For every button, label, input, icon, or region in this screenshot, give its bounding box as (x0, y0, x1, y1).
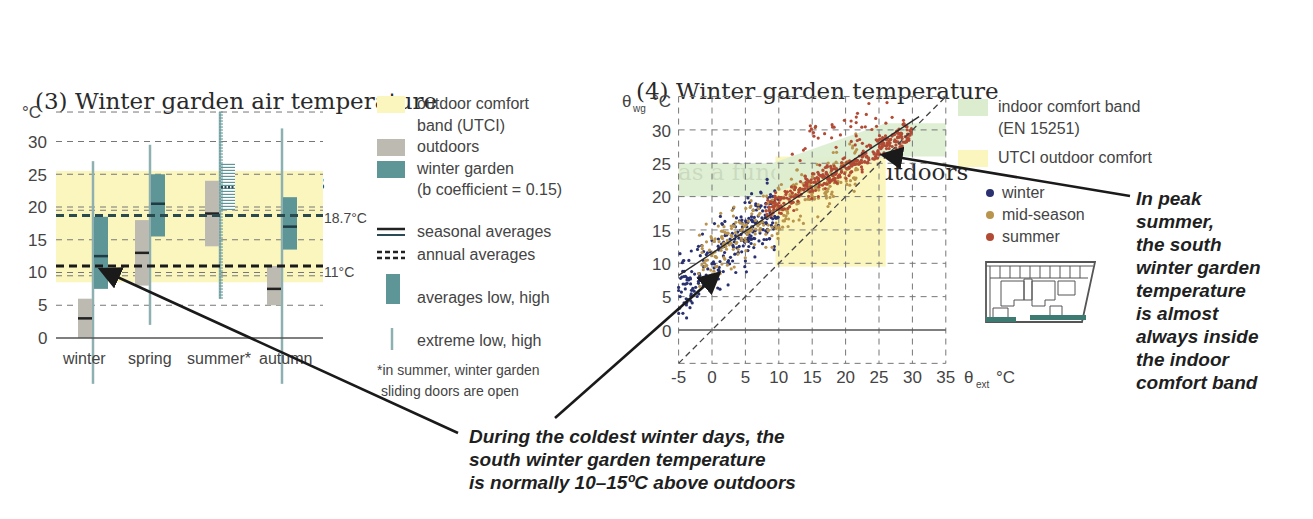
legend-outdoors-label: outdoors (417, 138, 479, 155)
chart4-ylabel-unit: °C (652, 92, 671, 111)
legend-summer-dot (986, 233, 994, 241)
legend-avg-box (386, 274, 400, 304)
chart3-ytick-20: 20 (28, 198, 47, 217)
chart3-legend: outdoor comfort band (UTCI) outdoors win… (377, 95, 562, 399)
chart4-trend-lines (679, 97, 946, 364)
legend-winter-garden-label2: (b coefficient = 0.15) (417, 181, 562, 198)
legend-utci-outdoor-swatch (958, 150, 988, 167)
chart4-ytick-0: 0 (662, 322, 671, 341)
chart4-ytick-25: 25 (652, 155, 671, 174)
chart4-xlabel-unit: °C (996, 368, 1015, 387)
legend-utci-label: outdoor comfort (417, 95, 530, 112)
chart4-ytick-10: 10 (652, 255, 671, 274)
chart3-ytick-30: 30 (28, 133, 47, 152)
chart4-ytick-15: 15 (652, 222, 671, 241)
chart4-ytick-5: 5 (662, 288, 671, 307)
chart3-annual-label-high: 18.7°C (324, 210, 367, 226)
building-plan-icon (986, 262, 1095, 322)
chart4-xticks: -505101520253035 (671, 368, 955, 387)
chart4-xtick: 20 (836, 368, 855, 387)
legend-outdoors-swatch (377, 139, 405, 156)
chart4-xtick: 30 (903, 368, 922, 387)
legend-indoor-label: indoor comfort band (998, 98, 1140, 115)
legend-seasonal-label: seasonal averages (417, 223, 551, 240)
legend-utci-outdoor-label: UTCI outdoor comfort (998, 149, 1152, 166)
legend-avg-label: averages low, high (417, 289, 550, 306)
legend-utci-label2: band (UTCI) (417, 117, 505, 134)
legend-midseason-dot (986, 211, 994, 219)
chart4-xtick: 10 (769, 368, 788, 387)
legend-extreme-label: extreme low, high (417, 332, 542, 349)
legend-winter-label: winter (1001, 184, 1045, 201)
chart4-xtick: -5 (671, 368, 686, 387)
chart4-ylabel-theta: θ (622, 92, 631, 111)
callout-winter-text: During the coldest winter days, the sout… (469, 425, 796, 494)
legend-indoor-label2: (EN 15251) (998, 120, 1080, 137)
legend-winter-garden-label: winter garden (416, 160, 514, 177)
chart4-xtick: 35 (936, 368, 955, 387)
legend-utci-swatch (377, 96, 405, 113)
chart3-ytick-25: 25 (28, 166, 47, 185)
chart4-ytick-20: 20 (652, 188, 671, 207)
legend-midseason-label: mid-season (1002, 206, 1085, 223)
chart4-scatter-plot: θ wg °C 30 25 20 15 10 5 0 -505101520253… (622, 92, 1152, 390)
legend-annual-label: annual averages (417, 246, 535, 263)
chart4-xlabel-theta: θ (964, 368, 973, 387)
legend-note-line2: sliding doors are open (381, 383, 519, 399)
chart4-ylabel-sub: wg (632, 103, 646, 114)
chart3-y-unit: °C (22, 103, 41, 122)
chart4-xlabel-sub: ext (976, 379, 990, 390)
legend-note-line1: *in summer, winter garden (377, 362, 540, 378)
chart3-category-winter: winter (62, 350, 106, 367)
chart3-ytick-15: 15 (28, 231, 47, 250)
chart3-category-spring: spring (128, 350, 172, 367)
chart4-ytick-30: 30 (652, 122, 671, 141)
legend-winter-dot (986, 189, 994, 197)
chart4-xtick: 0 (707, 368, 716, 387)
chart4-xtick: 5 (741, 368, 750, 387)
chart3-box-plot: °C 30 25 20 15 10 5 0 winter spring summ… (22, 95, 562, 399)
chart3-annual-label-low: 11°C (324, 264, 354, 280)
legend-summer-label: summer (1002, 228, 1060, 245)
callout-summer-text: In peak summer, the south winter garden … (1136, 187, 1261, 394)
chart3-ytick-5: 5 (38, 296, 47, 315)
chart3-ytick-10: 10 (28, 263, 47, 282)
legend-winter-garden-swatch (377, 161, 405, 178)
chart3-category-summer: summer* (187, 350, 251, 367)
chart4-xtick: 15 (803, 368, 822, 387)
chart3-ytick-0: 0 (38, 329, 47, 348)
chart4-xtick: 25 (870, 368, 889, 387)
arrow-to-winter-scatter (555, 274, 718, 418)
legend-indoor-swatch (958, 99, 988, 116)
chart3-category-autumn: autumn (259, 350, 312, 367)
